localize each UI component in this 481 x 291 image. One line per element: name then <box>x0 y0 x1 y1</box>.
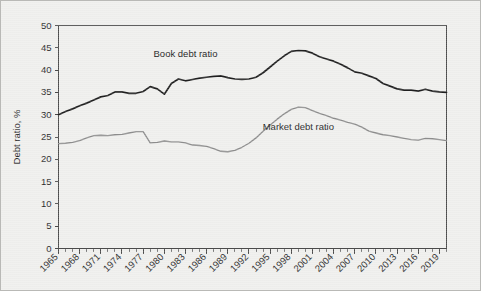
y-axis-tick-label: 10 <box>41 198 52 209</box>
plot-area: 0510152025303540455019651968197119741977… <box>11 20 447 274</box>
annotation-market-debt-ratio: Market debt ratio <box>263 121 334 132</box>
chart-figure: 0510152025303540455019651968197119741977… <box>0 0 481 291</box>
y-axis-tick-label: 50 <box>41 20 52 31</box>
y-axis-tick-label: 30 <box>41 109 52 120</box>
y-axis-tick-label: 5 <box>46 220 51 231</box>
y-axis-title: Debt ratio, % <box>11 109 22 164</box>
y-axis-tick-label: 15 <box>41 176 52 187</box>
y-axis-tick-label: 25 <box>41 131 52 142</box>
y-axis-tick-label: 40 <box>41 64 52 75</box>
debt-ratio-line-chart: 0510152025303540455019651968197119741977… <box>1 1 481 291</box>
annotation-book-debt-ratio: Book debt ratio <box>154 48 218 59</box>
y-axis-tick-label: 35 <box>41 86 52 97</box>
y-axis-tick-label: 20 <box>41 153 52 164</box>
plot-background <box>59 26 447 249</box>
y-axis-tick-label: 45 <box>41 42 52 53</box>
